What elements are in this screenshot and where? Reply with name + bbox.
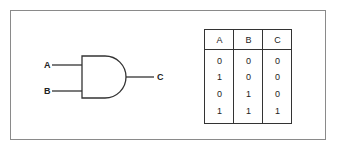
table-cell: 1 [205, 73, 234, 82]
table-cell: 0 [234, 57, 263, 66]
output-c-label: C [157, 73, 164, 82]
table-cell: 1 [234, 107, 263, 116]
header-divider [205, 49, 291, 50]
table-cell: 1 [205, 107, 234, 116]
table-cell: 1 [234, 90, 263, 99]
table-cell: 0 [263, 57, 292, 66]
table-cell: 0 [263, 73, 292, 82]
table-cell: 0 [205, 90, 234, 99]
input-b-label: B [44, 87, 51, 96]
table-cell: 0 [263, 90, 292, 99]
truth-table: A B C 0 0 0 1 0 0 0 1 0 1 1 1 [204, 29, 292, 124]
header-c: C [263, 36, 292, 45]
table-cell: 1 [263, 107, 292, 116]
header-b: B [234, 36, 263, 45]
table-cell: 0 [234, 73, 263, 82]
input-a-label: A [44, 61, 51, 70]
and-gate-body [82, 56, 126, 98]
table-cell: 0 [205, 57, 234, 66]
header-a: A [205, 36, 234, 45]
